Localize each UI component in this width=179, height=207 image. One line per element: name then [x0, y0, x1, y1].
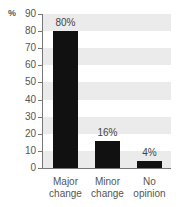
y-tick-label: 0	[14, 163, 36, 173]
bar	[53, 31, 78, 168]
bar-value-label: 4%	[130, 147, 170, 158]
category-label: Noopinion	[128, 176, 172, 200]
y-tick-label: 40	[14, 95, 36, 105]
bar-value-label: 80%	[46, 17, 86, 28]
y-tick-label: 80	[14, 26, 36, 36]
category-label: Minorchange	[86, 176, 130, 200]
y-tick-label: 50	[14, 77, 36, 87]
y-tick-label: 90	[14, 9, 36, 19]
y-tick-label: 70	[14, 43, 36, 53]
y-tick-label: 30	[14, 112, 36, 122]
x-axis-line	[40, 168, 171, 169]
bar	[137, 161, 162, 168]
bar	[95, 141, 120, 168]
y-axis-line	[42, 14, 43, 169]
y-tick-label: 20	[14, 129, 36, 139]
y-tick-label: 10	[14, 146, 36, 156]
y-tick-label: 60	[14, 60, 36, 70]
category-label: Majorchange	[44, 176, 88, 200]
bar-value-label: 16%	[88, 127, 128, 138]
